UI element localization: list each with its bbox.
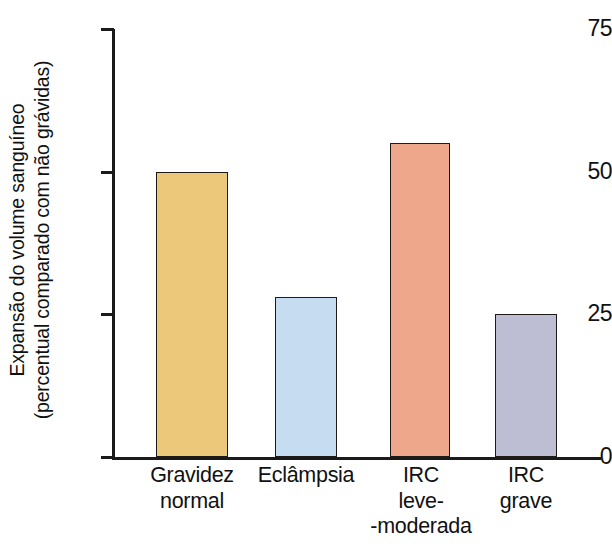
bar-chart: Expansão do volume sanguíneo (percentual…: [0, 0, 612, 554]
y-axis-title-line1: Expansão do volume sanguíneo: [5, 15, 30, 465]
plot-area: [112, 29, 601, 457]
y-axis-title: Expansão do volume sanguíneo (percentual…: [0, 0, 60, 470]
bar[interactable]: [275, 297, 337, 457]
x-axis-category-line: grave: [461, 489, 591, 515]
bar[interactable]: [156, 172, 228, 457]
y-axis-title-line2: (percentual comparado com não grávidas): [30, 15, 55, 465]
x-axis-category-line: IRC: [461, 463, 591, 489]
x-axis-category-line: -moderada: [346, 514, 496, 540]
x-axis-category-line: normal: [117, 489, 267, 515]
bar[interactable]: [390, 143, 450, 457]
x-axis-category-label: IRCgrave: [461, 463, 591, 514]
bar[interactable]: [495, 314, 557, 457]
x-axis-line: [112, 457, 601, 460]
